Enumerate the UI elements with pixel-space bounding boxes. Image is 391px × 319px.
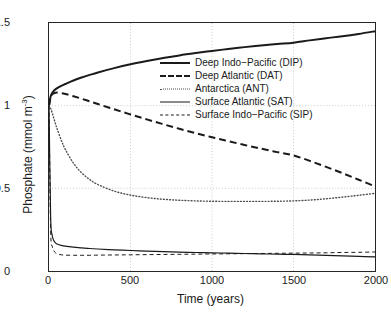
- legend-item-label: Antarctica (ANT): [195, 82, 269, 95]
- legend-item-ant[interactable]: Antarctica (ANT): [160, 82, 366, 95]
- x-tick-label-500: 500: [121, 275, 139, 286]
- legend-item-label: Deep Indo−Pacific (DIP): [195, 56, 303, 69]
- legend-item-label: Surface Indo−Pacific (SIP): [195, 108, 313, 121]
- legend-swatch-thick-solid-icon: [160, 57, 190, 69]
- y-tick-label-1p5: 1.5: [0, 17, 10, 28]
- legend-item-label: Deep Atlantic (DAT): [195, 69, 283, 82]
- legend-swatch-thin-dash-icon: [160, 109, 190, 121]
- y-tick-label-0p5: 0.5: [0, 183, 10, 194]
- legend-swatch-thick-dash-icon: [160, 70, 190, 82]
- legend: Deep Indo−Pacific (DIP)Deep Atlantic (DA…: [160, 56, 366, 121]
- x-axis-label: Time (years): [0, 292, 391, 306]
- legend-item-dip[interactable]: Deep Indo−Pacific (DIP): [160, 56, 366, 69]
- y-tick-label-0: 0: [0, 266, 10, 277]
- legend-item-label: Surface Atlantic (SAT): [195, 95, 293, 108]
- x-tick-label-2000: 2000: [364, 275, 388, 286]
- y-axis-label: Phosphate (mmol m-3): [20, 75, 35, 235]
- series-line-sip: [49, 106, 375, 256]
- figure-canvas: 1.5 1 0.5 0 0 500 1000 1500 2000 Time (y…: [0, 0, 391, 319]
- legend-swatch-dotted-icon: [160, 83, 190, 95]
- series-line-sat: [49, 106, 375, 257]
- y-tick-label-1: 1: [0, 100, 10, 111]
- legend-swatch-thin-solid-icon: [160, 96, 190, 108]
- legend-item-sat[interactable]: Surface Atlantic (SAT): [160, 95, 366, 108]
- x-tick-label-1000: 1000: [200, 275, 224, 286]
- x-tick-label-1500: 1500: [282, 275, 306, 286]
- legend-item-dat[interactable]: Deep Atlantic (DAT): [160, 69, 366, 82]
- legend-item-sip[interactable]: Surface Indo−Pacific (SIP): [160, 108, 366, 121]
- x-tick-label-0: 0: [45, 275, 51, 286]
